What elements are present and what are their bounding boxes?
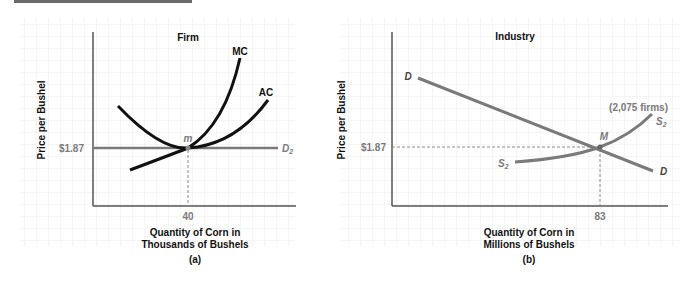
price-tick-label: $1.87 <box>361 142 386 153</box>
y-axis-label: Price per Bushel <box>36 80 47 159</box>
point-label-m: m <box>184 133 193 144</box>
demand-label-top: D <box>404 71 411 82</box>
equilibrium-point-m <box>186 146 191 151</box>
quantity-tick-label: 83 <box>594 211 606 222</box>
quantity-tick-label: 40 <box>182 211 194 222</box>
y-axis-label: Price per Bushel <box>336 80 347 159</box>
point-label-M: M <box>600 131 609 142</box>
demand-label-bottom: D <box>660 166 667 177</box>
x-axis-label-line1: Quantity of Corn in <box>484 227 575 238</box>
grid-background <box>20 18 295 146</box>
x-axis-label-line1: Quantity of Corn in <box>150 227 241 238</box>
ac-label: AC <box>259 87 273 98</box>
firm-panel: Firm MC AC m D2 $1.87 40 Price per Bushe… <box>20 18 296 265</box>
x-axis-label-line2: Thousands of Bushels <box>141 239 249 250</box>
mc-label: MC <box>232 46 248 57</box>
price-tick-label: $1.87 <box>59 143 84 154</box>
panel-title: Firm <box>177 32 199 43</box>
panel-label: (a) <box>189 254 201 265</box>
chart-canvas: Firm MC AC m D2 $1.87 40 Price per Bushe… <box>0 0 699 286</box>
equilibrium-point-M <box>598 145 603 150</box>
panel-title: Industry <box>495 31 535 42</box>
industry-panel: Industry D D M (2,075 firms) S2 S2 $1.87… <box>336 18 680 265</box>
panel-label: (b) <box>523 254 536 265</box>
firms-annotation: (2,075 firms) <box>609 102 668 113</box>
x-axis-label-line2: Millions of Bushels <box>483 239 575 250</box>
